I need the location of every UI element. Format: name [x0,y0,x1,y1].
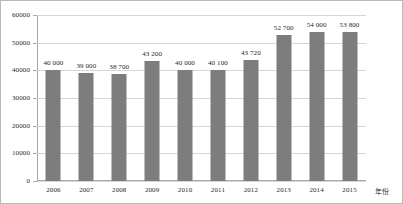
bar-group: 38 7002008 [103,15,136,181]
x-tick-label-2009: 2009 [145,186,159,194]
bar-2012[interactable] [243,60,258,181]
bar-2014[interactable] [309,32,324,181]
bar-2007[interactable] [79,73,94,181]
gridline-0 [37,181,366,182]
bar-group: 39 0002007 [70,15,103,181]
x-tick-label-2011: 2011 [211,186,225,194]
bar-value-label-2009: 43 200 [142,50,162,58]
y-tick-label-20000: 20000 [12,122,30,130]
y-tick-label-30000: 30000 [12,94,30,102]
x-tick-label-2013: 2013 [277,186,291,194]
bar-group: 40 0002006 [37,15,70,181]
y-tick-label-60000: 60000 [12,11,30,19]
bar-value-label-2012: 43 720 [241,49,261,57]
bar-2015[interactable] [342,32,357,181]
x-tick-label-2015: 2015 [342,186,356,194]
bar-group: 43 7202012 [234,15,267,181]
bar-value-label-2008: 38 700 [109,63,129,71]
plot-area: 0100002000030000400005000060000 40 00020… [37,15,366,181]
x-tick-label-2010: 2010 [178,186,192,194]
y-tick-label-10000: 10000 [12,149,30,157]
bar-group: 53 8002015 [333,15,366,181]
bar-2008[interactable] [112,74,127,181]
bar-value-label-2007: 39 000 [76,62,96,70]
bar-value-label-2010: 40 000 [175,59,195,67]
bar-group: 40 1002011 [202,15,235,181]
x-tick-label-2006: 2006 [46,186,60,194]
bar-group: 40 0002010 [169,15,202,181]
x-axis-title: 年份 [375,186,389,196]
bar-2013[interactable] [276,35,291,181]
x-tick-label-2014: 2014 [309,186,323,194]
chart-figure: 0100002000030000400005000060000 40 00020… [0,0,403,204]
bar-group: 54 0002014 [300,15,333,181]
x-tick-label-2008: 2008 [112,186,126,194]
bar-2010[interactable] [178,70,193,181]
bar-group: 43 2002009 [136,15,169,181]
bar-group: 52 7002013 [267,15,300,181]
bar-value-label-2013: 52 700 [274,24,294,32]
bar-value-label-2011: 40 100 [208,59,228,67]
y-tick-mark-0 [33,181,37,182]
bar-2006[interactable] [46,70,61,181]
bar-series: 40 000200639 000200738 700200843 2002009… [37,15,366,181]
bar-value-label-2014: 54 000 [307,21,327,29]
bar-value-label-2015: 53 800 [340,21,360,29]
y-tick-label-50000: 50000 [12,39,30,47]
bar-2011[interactable] [210,70,225,181]
x-tick-label-2007: 2007 [79,186,93,194]
bar-value-label-2006: 40 000 [44,59,64,67]
x-tick-label-2012: 2012 [244,186,258,194]
bar-2009[interactable] [145,61,160,181]
y-tick-label-0: 0 [26,177,30,185]
y-tick-label-40000: 40000 [12,66,30,74]
